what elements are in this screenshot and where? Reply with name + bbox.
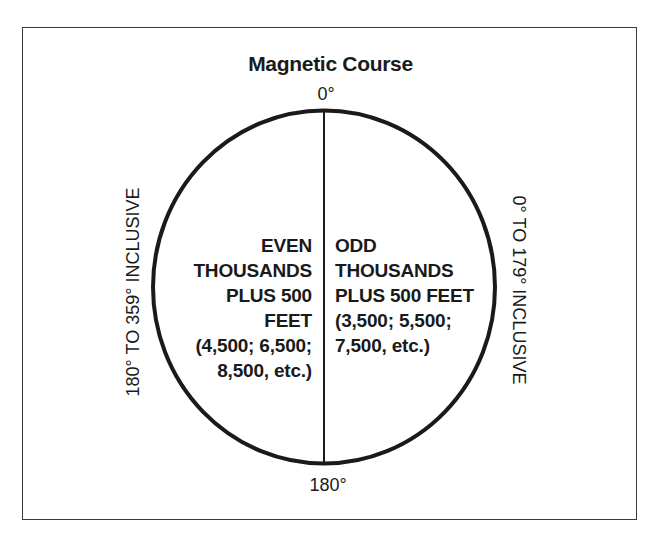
odd-altitude-rule: ODD THOUSANDS PLUS 500 FEET (3,500; 5,50… — [335, 233, 474, 358]
odd-rule-line: ODD — [335, 233, 474, 258]
even-rule-line: PLUS 500 — [193, 283, 312, 308]
even-rule-line: FEET — [193, 308, 312, 333]
odd-rule-line: 7,500, etc.) — [335, 333, 474, 358]
even-rule-line: EVEN — [193, 233, 312, 258]
even-rule-line: (4,500; 6,500; — [193, 333, 312, 358]
heading-0-label: 0° — [286, 84, 366, 104]
diagram-title: Magnetic Course — [0, 52, 657, 76]
even-rule-line: THOUSANDS — [193, 258, 312, 283]
odd-rule-line: THOUSANDS — [335, 258, 474, 283]
odd-rule-line: PLUS 500 FEET — [335, 283, 474, 308]
east-range-label: 0° TO 179° INCLUSIVE — [509, 170, 529, 410]
compass-diagram — [0, 0, 657, 541]
even-altitude-rule: EVEN THOUSANDS PLUS 500 FEET (4,500; 6,5… — [193, 233, 312, 383]
even-rule-line: 8,500, etc.) — [193, 358, 312, 383]
west-range-label: 180° TO 359° INCLUSIVE — [123, 172, 143, 412]
odd-rule-line: (3,500; 5,500; — [335, 308, 474, 333]
heading-180-label: 180° — [288, 475, 368, 495]
